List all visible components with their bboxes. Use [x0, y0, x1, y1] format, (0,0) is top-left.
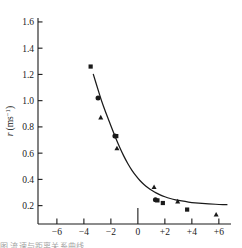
y-tick-label-0.6: 0.6: [22, 149, 34, 159]
data-point-triangle: [98, 115, 103, 120]
data-point-square: [89, 64, 93, 68]
scatter-plot: 0.20.40.60.81.01.21.41.6−6−4−20+2+4+6r (…: [0, 0, 242, 248]
data-markers-layer: [89, 64, 219, 216]
axes-layer: [38, 18, 231, 224]
figure-container: 0.20.40.60.81.01.21.41.6−6−4−20+2+4+6r (…: [0, 0, 242, 248]
fit-curve-layer: [93, 74, 227, 204]
data-point-circle: [153, 197, 158, 202]
y-tick-label-0.8: 0.8: [22, 122, 34, 132]
y-tick-label-1.2: 1.2: [22, 70, 34, 80]
fitted-curve-path: [93, 74, 227, 204]
x-tick-label-+2: +2: [160, 227, 170, 237]
x-tick-label-−2: −2: [106, 227, 116, 237]
x-tick-label-−4: −4: [79, 227, 89, 237]
x-tick-label-0: 0: [135, 227, 140, 237]
y-axis-title: r (ms−1): [4, 106, 17, 136]
caption-fragment: 图 流速与距离关系曲线: [0, 241, 242, 248]
data-point-circle: [96, 96, 101, 101]
data-point-square: [185, 207, 189, 211]
data-point-triangle: [152, 184, 157, 189]
x-tick-label-+4: +4: [187, 227, 197, 237]
data-point-triangle: [214, 212, 219, 217]
y-tick-label-1.4: 1.4: [22, 44, 34, 54]
x-tick-label-+6: +6: [214, 227, 224, 237]
data-point-square: [161, 201, 165, 205]
y-tick-label-1.0: 1.0: [22, 96, 34, 106]
x-tick-label-−6: −6: [52, 227, 62, 237]
data-point-circle: [112, 134, 117, 139]
axis-labels-layer: 0.20.40.60.81.01.21.41.6−6−4−20+2+4+6r (…: [4, 17, 225, 237]
y-tick-label-0.4: 0.4: [22, 175, 34, 185]
y-tick-label-1.6: 1.6: [22, 17, 34, 27]
y-tick-label-0.2: 0.2: [22, 201, 34, 211]
